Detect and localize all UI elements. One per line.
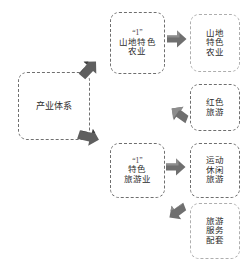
- arrow-pillar-2-to-outcome-3-icon: [165, 157, 187, 177]
- node-pillar-mountain-agriculture[interactable]: “1” 山地特色 农业: [110, 12, 165, 74]
- node-industry-system[interactable]: 产业体系: [18, 72, 90, 140]
- arrow-pillar-1-to-outcome-1-icon: [166, 29, 188, 49]
- node-outcome-4-label: 旅游 服务 配套: [206, 217, 224, 246]
- node-outcome-3-label: 运动 休闲 旅游: [206, 156, 224, 185]
- node-pillar-specialty-tourism[interactable]: “1” 特色 旅游业: [110, 143, 165, 198]
- node-industry-system-label: 产业体系: [36, 101, 73, 111]
- node-outcome-tourism-service-facilities[interactable]: 旅游 服务 配套: [190, 203, 240, 259]
- node-outcome-red-tourism[interactable]: 红色 旅游: [190, 84, 240, 131]
- arrow-pillar-2-to-outcome-4-icon: [163, 199, 187, 223]
- node-outcome-1-label: 山地 特色 农业: [206, 29, 224, 58]
- node-pillar-1-label: 山地特色 农业: [119, 38, 156, 57]
- node-outcome-mountain-specialty-agriculture[interactable]: 山地 特色 农业: [190, 14, 240, 72]
- industry-system-diagram: 产业体系 “1” 山地特色 农业 “1” 特色 旅游业: [0, 0, 250, 265]
- node-outcome-sports-leisure-tourism[interactable]: 运动 休闲 旅游: [190, 143, 240, 198]
- node-outcome-2-label: 红色 旅游: [206, 98, 224, 117]
- arrow-pillar-2-to-outcome-2-icon: [165, 104, 189, 128]
- node-pillar-2-label: 特色 旅游业: [124, 165, 152, 184]
